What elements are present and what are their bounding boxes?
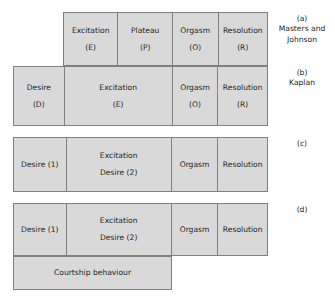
cell-label-line2: (P) <box>140 44 151 52</box>
cell-label-line2: Desire (2) <box>100 234 137 242</box>
cell-label-line1: Plateau <box>131 27 159 35</box>
cell-label-line2: (R) <box>237 101 248 109</box>
caption-d: (d) <box>269 205 335 215</box>
cell-courtship-behaviour: Courtship behaviour <box>14 257 171 289</box>
cell-label-line1: Resolution <box>223 84 263 92</box>
cell-label-line1: Desire (1) <box>21 161 58 169</box>
cell-label-line2: (E) <box>85 44 96 52</box>
caption-b: (b) Kaplan <box>269 68 335 89</box>
cell-a-plateau: Plateau (P) <box>117 13 171 65</box>
cell-d-resolution: Resolution <box>217 204 267 255</box>
caption-tag: (d) <box>269 205 335 215</box>
cell-label-line1: Excitation <box>72 27 110 35</box>
cell-c-excitation-desire2: Excitation Desire (2) <box>66 138 171 191</box>
caption-tag: (a) <box>269 14 335 24</box>
cell-d-excitation-desire2: Excitation Desire (2) <box>66 204 171 255</box>
caption-author: Kaplan <box>269 78 335 88</box>
cell-label-line1: Desire <box>27 84 51 92</box>
cell-d-desire1: Desire (1) <box>14 204 66 255</box>
sexual-response-cycle-diagram: Excitation (E) Plateau (P) Orgasm (O) Re… <box>0 0 335 298</box>
cell-label-line1: Resolution <box>223 161 263 169</box>
model-row-a: Excitation (E) Plateau (P) Orgasm (O) Re… <box>63 12 268 66</box>
cell-label-line1: Resolution <box>223 27 263 35</box>
cell-label-line1: Orgasm <box>180 226 210 234</box>
cell-b-resolution: Resolution (R) <box>217 67 267 125</box>
cell-label-line1: Orgasm <box>180 84 210 92</box>
cell-label-line2: (O) <box>189 44 201 52</box>
cell-label-line2: (R) <box>237 44 248 52</box>
courtship-behaviour-row: Courtship behaviour <box>13 256 172 290</box>
cell-label-line1: Orgasm <box>180 161 210 169</box>
cell-d-orgasm: Orgasm <box>171 204 218 255</box>
model-row-d: Desire (1) Excitation Desire (2) Orgasm … <box>13 203 268 256</box>
caption-c: (c) <box>269 139 335 149</box>
model-row-c: Desire (1) Excitation Desire (2) Orgasm … <box>13 137 268 192</box>
cell-label-line2: (O) <box>189 101 201 109</box>
cell-a-resolution: Resolution (R) <box>218 13 268 65</box>
cell-label-line2: (E) <box>113 101 124 109</box>
caption-author: Masters and Johnson <box>269 24 335 45</box>
cell-label-line1: Resolution <box>223 226 263 234</box>
cell-label-line1: Courtship behaviour <box>54 269 131 277</box>
cell-label-line1: Orgasm <box>180 27 210 35</box>
caption-tag: (b) <box>269 68 335 78</box>
model-row-b: Desire (D) Excitation (E) Orgasm (O) Res… <box>13 66 268 126</box>
cell-c-resolution: Resolution <box>217 138 267 191</box>
cell-a-excitation: Excitation (E) <box>64 13 117 65</box>
cell-b-excitation: Excitation (E) <box>64 67 172 125</box>
cell-label-line1: Excitation <box>100 152 138 160</box>
cell-label-line1: Excitation <box>100 217 138 225</box>
cell-a-orgasm: Orgasm (O) <box>172 13 218 65</box>
cell-c-desire1: Desire (1) <box>14 138 66 191</box>
cell-label-line2: (D) <box>33 101 45 109</box>
caption-tag: (c) <box>269 139 335 149</box>
caption-a: (a) Masters and Johnson <box>269 14 335 45</box>
cell-b-desire: Desire (D) <box>14 67 64 125</box>
cell-label-line1: Desire (1) <box>21 226 58 234</box>
cell-label-line1: Excitation <box>99 84 137 92</box>
cell-label-line2: Desire (2) <box>100 169 137 177</box>
cell-b-orgasm: Orgasm (O) <box>172 67 218 125</box>
cell-c-orgasm: Orgasm <box>171 138 218 191</box>
